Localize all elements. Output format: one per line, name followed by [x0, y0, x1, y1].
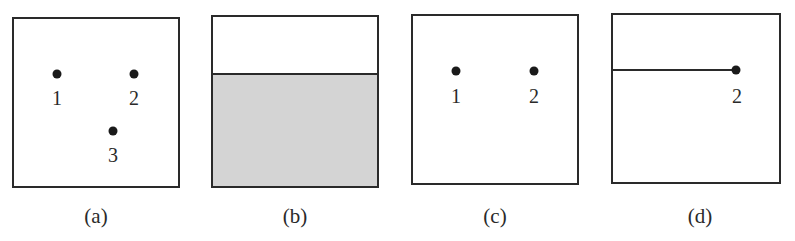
- point-2-label: 2: [732, 86, 742, 106]
- point-1-label: 1: [52, 88, 62, 108]
- point-2-label: 2: [529, 86, 539, 106]
- panel-d-box: [611, 13, 781, 184]
- panel-d-caption: (d): [688, 206, 713, 227]
- shaded-region: [213, 73, 377, 186]
- point-1-dot: [452, 67, 461, 76]
- panel-c-caption: (c): [483, 206, 506, 227]
- panel-a-caption: (a): [84, 206, 107, 227]
- panel-c-box: [411, 14, 579, 185]
- point-1-label: 1: [451, 86, 461, 106]
- point-2-dot: [130, 70, 139, 79]
- point-2-dot: [530, 67, 539, 76]
- point-2-label: 2: [129, 88, 139, 108]
- point-1-dot: [53, 70, 62, 79]
- point-3-dot: [109, 127, 118, 136]
- panel-a-box: [12, 17, 180, 188]
- connecting-line: [611, 69, 736, 71]
- panel-b-box: [211, 15, 379, 188]
- point-2-dot: [732, 66, 741, 75]
- panel-b-caption: (b): [283, 206, 308, 227]
- point-3-label: 3: [108, 145, 118, 165]
